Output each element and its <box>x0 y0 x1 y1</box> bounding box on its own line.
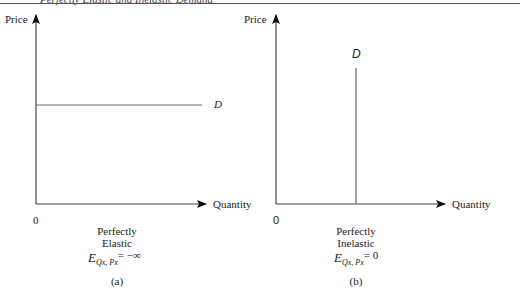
panel-b-ylabel: Price <box>244 13 267 25</box>
panel-b-elasticity: EQx, Px= 0 <box>334 250 378 267</box>
panel-b-xlabel: Quantity <box>452 198 491 210</box>
panel-b-axes <box>276 15 445 204</box>
panel-a-xlabel: Quantity <box>213 198 252 210</box>
panel-a-caption: Perfectly Elastic <box>97 225 137 249</box>
panel-b-id: (b) <box>350 275 363 287</box>
panel-a-curve-label: D <box>214 98 222 110</box>
panel-a-axes <box>36 15 206 204</box>
panel-a-elasticity: EQx, Px= −∞ <box>88 250 141 267</box>
chart-graphics <box>0 0 520 298</box>
panel-a-origin: 0 <box>33 214 39 226</box>
panel-a-id: (a) <box>111 275 123 287</box>
panel-b-origin: 0 <box>273 214 279 226</box>
panel-b-caption: Perfectly Inelastic <box>336 225 376 249</box>
panel-b-curve-label: D <box>352 47 361 61</box>
panel-a-ylabel: Price <box>5 13 28 25</box>
